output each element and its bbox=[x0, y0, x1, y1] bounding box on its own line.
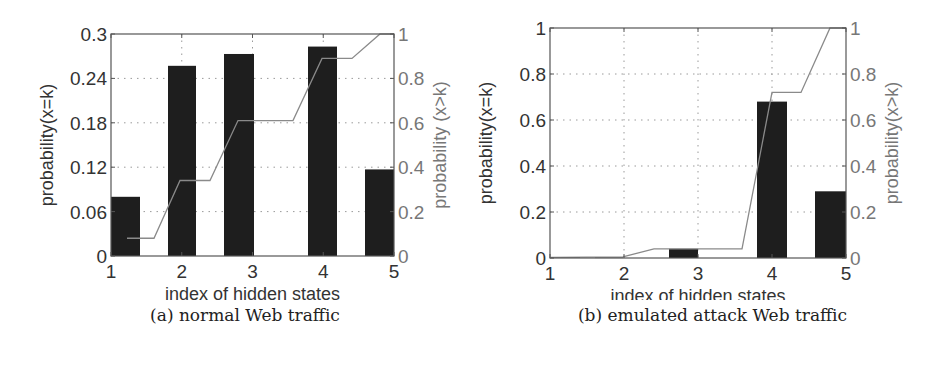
bar-3 bbox=[224, 54, 254, 256]
svg-text:0.8: 0.8 bbox=[398, 68, 424, 89]
cumulative-line bbox=[551, 28, 846, 257]
svg-text:1: 1 bbox=[398, 24, 409, 45]
bar-3 bbox=[669, 249, 698, 258]
y-axis-title-left: probability(x=k) bbox=[37, 84, 57, 207]
svg-text:5: 5 bbox=[389, 261, 400, 282]
svg-text:1: 1 bbox=[545, 263, 556, 284]
bar-5 bbox=[365, 169, 394, 256]
y-axis-title-right: probability(x>k) bbox=[882, 82, 902, 205]
bar-series bbox=[551, 102, 846, 258]
svg-text:0.8: 0.8 bbox=[850, 64, 876, 85]
svg-text:0.2: 0.2 bbox=[850, 202, 876, 223]
figure-a-normal-traffic: 00.060.120.180.240.300.20.40.60.8112345i… bbox=[0, 0, 470, 376]
caption-b: (b) emulated attack Web traffic bbox=[470, 305, 945, 325]
y-tick-labels-left: 00.060.120.180.240.3 bbox=[70, 24, 107, 267]
svg-text:0.4: 0.4 bbox=[520, 156, 547, 177]
svg-text:0.12: 0.12 bbox=[70, 157, 107, 178]
svg-text:0.6: 0.6 bbox=[520, 110, 546, 131]
svg-text:0.6: 0.6 bbox=[398, 113, 424, 134]
grid bbox=[550, 28, 846, 258]
chart-b: 00.20.40.60.8100.20.40.60.8112345index o… bbox=[470, 0, 945, 300]
svg-text:0.18: 0.18 bbox=[70, 113, 107, 134]
svg-text:0: 0 bbox=[398, 246, 409, 267]
svg-text:4: 4 bbox=[318, 261, 329, 282]
svg-text:0.6: 0.6 bbox=[850, 110, 876, 131]
x-axis-title: index of hidden states bbox=[165, 284, 340, 300]
figure-b-attack-traffic: 00.20.40.60.8100.20.40.60.8112345index o… bbox=[470, 0, 945, 376]
svg-text:0.3: 0.3 bbox=[81, 24, 107, 45]
svg-text:1: 1 bbox=[106, 261, 117, 282]
svg-text:4: 4 bbox=[767, 263, 778, 284]
y-axis-title-left: probability(x=k) bbox=[476, 82, 496, 205]
svg-text:0.4: 0.4 bbox=[398, 157, 425, 178]
svg-text:2: 2 bbox=[619, 263, 630, 284]
x-tick-labels: 12345 bbox=[106, 261, 400, 282]
svg-text:0.06: 0.06 bbox=[70, 202, 107, 223]
x-axis-title: index of hidden states bbox=[610, 286, 785, 300]
svg-text:1: 1 bbox=[535, 18, 546, 39]
y-tick-labels-left: 00.20.40.60.81 bbox=[520, 18, 547, 269]
svg-text:0.2: 0.2 bbox=[520, 202, 546, 223]
svg-text:0.8: 0.8 bbox=[520, 64, 546, 85]
svg-text:0.24: 0.24 bbox=[70, 68, 107, 89]
svg-text:3: 3 bbox=[247, 261, 258, 282]
chart-a: 00.060.120.180.240.300.20.40.60.8112345i… bbox=[0, 0, 470, 300]
svg-text:0: 0 bbox=[850, 248, 861, 269]
y-tick-labels-right: 00.20.40.60.81 bbox=[398, 24, 425, 267]
cumulative-line bbox=[127, 34, 394, 238]
svg-text:1: 1 bbox=[850, 18, 861, 39]
x-tick-labels: 12345 bbox=[545, 263, 852, 284]
svg-text:5: 5 bbox=[841, 263, 852, 284]
bar-5 bbox=[815, 191, 846, 258]
svg-text:3: 3 bbox=[693, 263, 704, 284]
svg-text:2: 2 bbox=[176, 261, 187, 282]
y-axis-title-right: probability (x>k) bbox=[430, 81, 450, 209]
bar-2 bbox=[168, 66, 196, 256]
svg-text:0.4: 0.4 bbox=[850, 156, 877, 177]
caption-a: (a) normal Web traffic bbox=[0, 305, 470, 325]
y-tick-labels-right: 00.20.40.60.81 bbox=[850, 18, 877, 269]
bar-1 bbox=[111, 197, 140, 256]
bar-4 bbox=[757, 102, 787, 258]
svg-text:0.2: 0.2 bbox=[398, 202, 424, 223]
